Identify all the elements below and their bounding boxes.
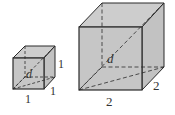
- small-cube-width-label: 1: [25, 92, 31, 106]
- small-cube: d 1 1 1: [13, 46, 64, 106]
- large-cube-depth-label: 2: [153, 78, 160, 93]
- cube-diagrams: d 1 1 1 d 2 2: [0, 0, 175, 115]
- small-cube-height-label: 1: [58, 57, 64, 71]
- large-cube-diagonal-label: d: [107, 51, 114, 66]
- large-cube: d 2 2: [79, 3, 164, 109]
- small-cube-diagonal-label: d: [26, 67, 33, 81]
- small-cube-depth-label: 1: [50, 84, 56, 98]
- large-cube-width-label: 2: [106, 94, 113, 109]
